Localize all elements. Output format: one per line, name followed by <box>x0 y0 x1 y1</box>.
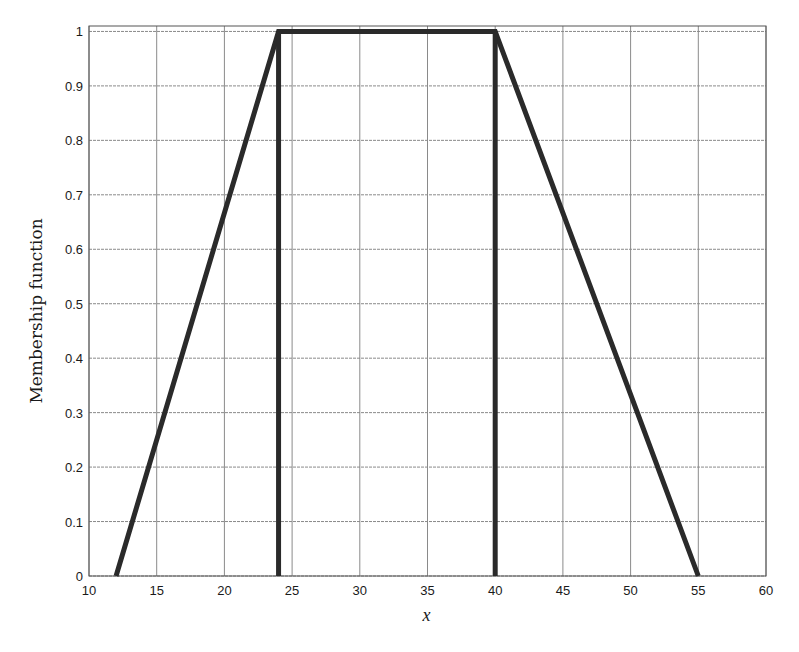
x-tick-label: 55 <box>691 583 705 598</box>
x-tick-label: 50 <box>623 583 637 598</box>
y-tick-label: 1 <box>76 24 83 39</box>
chart: 1015202530354045505560 00.10.20.30.40.50… <box>0 0 799 652</box>
y-tick-label: 0.4 <box>65 351 83 366</box>
x-tick-label: 45 <box>556 583 570 598</box>
x-tick-label: 35 <box>420 583 434 598</box>
x-tick-label: 40 <box>488 583 502 598</box>
y-tick-label: 0.2 <box>65 460 83 475</box>
y-tick-label: 0.5 <box>65 297 83 312</box>
grid-lines <box>89 26 766 576</box>
y-tick-label: 0.8 <box>65 133 83 148</box>
x-axis-ticks: 1015202530354045505560 <box>82 583 773 598</box>
y-tick-label: 0.9 <box>65 79 83 94</box>
y-tick-label: 0.1 <box>65 515 83 530</box>
x-axis-label: x <box>422 605 431 625</box>
y-tick-label: 0.7 <box>65 188 83 203</box>
y-axis-label: Membership function <box>26 218 46 403</box>
x-tick-label: 15 <box>149 583 163 598</box>
y-tick-label: 0.6 <box>65 242 83 257</box>
x-tick-label: 20 <box>217 583 231 598</box>
x-tick-label: 10 <box>82 583 96 598</box>
x-tick-label: 30 <box>353 583 367 598</box>
y-tick-label: 0 <box>76 569 83 584</box>
y-axis-ticks: 00.10.20.30.40.50.60.70.80.91 <box>65 24 83 584</box>
x-tick-label: 60 <box>759 583 773 598</box>
x-tick-label: 25 <box>285 583 299 598</box>
y-tick-label: 0.3 <box>65 406 83 421</box>
